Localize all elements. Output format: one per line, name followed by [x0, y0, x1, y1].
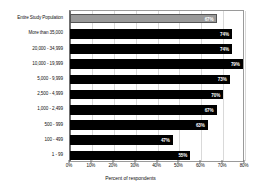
bar-row: 47% — [70, 135, 243, 144]
category-label: 10,000 - 19,999 — [32, 61, 63, 66]
bar-row: 67% — [70, 105, 243, 114]
bar-value-label: 67% — [205, 107, 214, 112]
category-label: 5,000 - 9,999 — [37, 76, 63, 81]
bar-series: 67%74%74%79%73%70%67%63%47%55% — [70, 11, 243, 161]
category-label: 2,500 - 4,999 — [37, 91, 63, 96]
bar: 74% — [70, 44, 232, 53]
bar-value-label: 79% — [231, 62, 240, 67]
plot-area: 67%74%74%79%73%70%67%63%47%55% — [69, 10, 244, 162]
category-label: 500 - 999 — [44, 122, 63, 127]
bar-row: 55% — [70, 151, 243, 160]
bar: 67% — [70, 14, 217, 23]
bar-row: 70% — [70, 90, 243, 99]
bar: 70% — [70, 90, 223, 99]
category-label: 20,000 - 34,999 — [32, 46, 63, 51]
bar-row: 74% — [70, 44, 243, 53]
bar: 63% — [70, 120, 208, 129]
x-axis-title: Percent of respondents — [0, 175, 261, 182]
bar-row: 67% — [70, 14, 243, 23]
x-tick-label: 20% — [108, 163, 117, 169]
x-tick-label: 70% — [218, 163, 227, 169]
bar-row: 73% — [70, 75, 243, 84]
category-label: 100 - 499 — [44, 137, 63, 142]
bar-value-label: 73% — [218, 77, 227, 82]
bar-value-label: 67% — [205, 16, 214, 21]
x-tick-label: 80% — [240, 163, 249, 169]
x-tick-label: 60% — [196, 163, 205, 169]
bar-value-label: 55% — [178, 153, 187, 158]
bar-row: 79% — [70, 59, 243, 68]
bar: 47% — [70, 135, 173, 144]
category-axis-labels: Entire Study PopulationMore than 35,0002… — [0, 10, 66, 162]
category-label: More than 35,000 — [29, 30, 63, 35]
x-tick-label: 50% — [174, 163, 183, 169]
bar: 55% — [70, 151, 190, 160]
bar-value-label: 47% — [161, 138, 170, 143]
category-label: 1,000 - 2,499 — [37, 106, 63, 111]
bar-chart: Entire Study PopulationMore than 35,0002… — [0, 0, 261, 192]
x-tick-label: 30% — [130, 163, 139, 169]
gridline-80pct — [245, 11, 246, 161]
x-tick-label: 40% — [152, 163, 161, 169]
bar: 79% — [70, 59, 243, 68]
bar-value-label: 74% — [220, 31, 229, 36]
bar-value-label: 70% — [211, 92, 220, 97]
x-tick-label: 0% — [66, 163, 72, 169]
bar-row: 74% — [70, 29, 243, 38]
bar-value-label: 63% — [196, 122, 205, 127]
bar: 67% — [70, 105, 217, 114]
category-label: Entire Study Population — [17, 15, 63, 20]
bar: 74% — [70, 29, 232, 38]
bar-value-label: 74% — [220, 46, 229, 51]
x-tick-label: 10% — [87, 163, 96, 169]
category-label: 1 - 99 — [52, 152, 63, 157]
x-axis-tick-labels: 0%10%20%30%40%50%60%70%80% — [0, 163, 261, 175]
bar: 73% — [70, 75, 230, 84]
bar-row: 63% — [70, 120, 243, 129]
